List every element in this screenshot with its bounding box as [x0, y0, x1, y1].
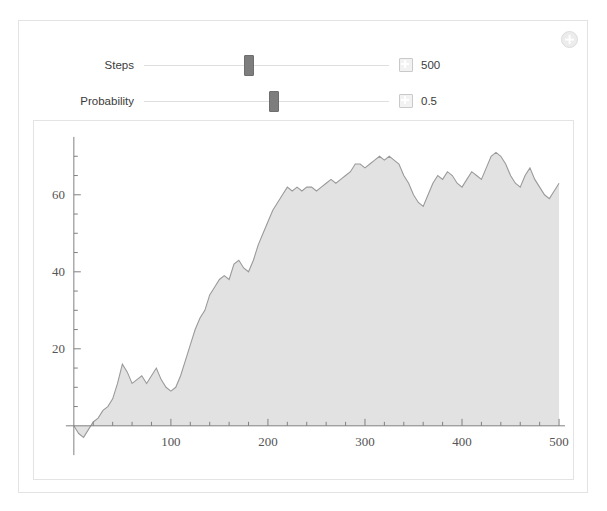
x-tick-label: 500 [549, 434, 568, 449]
slider-thumb-probability[interactable] [269, 91, 279, 112]
random-walk-chart: 100200300400500204060 [34, 121, 573, 479]
slider-track-probability [144, 101, 389, 102]
slider-probability[interactable] [144, 88, 389, 114]
walk-area [74, 152, 559, 437]
plus-square-icon-probability[interactable] [399, 94, 413, 108]
chart-panel: 100200300400500204060 [33, 120, 574, 480]
control-right-steps: 500 [389, 58, 440, 72]
slider-steps[interactable] [144, 52, 389, 78]
x-tick-label: 200 [258, 434, 277, 449]
slider-track-steps [144, 65, 389, 66]
x-tick-label: 100 [161, 434, 180, 449]
controls-area: Steps 500 Probability 0.5 [19, 21, 587, 119]
control-value-probability: 0.5 [421, 95, 437, 107]
control-row-steps: Steps 500 [19, 47, 587, 83]
plus-square-icon-steps[interactable] [399, 58, 413, 72]
control-label-steps: Steps [19, 59, 144, 71]
app-root: Steps 500 Probability 0.5 [0, 0, 607, 511]
control-value-steps: 500 [421, 59, 440, 71]
y-tick-label: 20 [52, 341, 65, 356]
control-row-probability: Probability 0.5 [19, 83, 587, 119]
control-right-probability: 0.5 [389, 94, 437, 108]
x-tick-label: 400 [452, 434, 471, 449]
y-tick-label: 60 [52, 187, 65, 202]
manipulate-panel: Steps 500 Probability 0.5 [18, 20, 588, 493]
slider-thumb-steps[interactable] [244, 55, 254, 76]
control-label-probability: Probability [19, 95, 144, 107]
y-tick-label: 40 [52, 264, 65, 279]
x-tick-label: 300 [355, 434, 374, 449]
